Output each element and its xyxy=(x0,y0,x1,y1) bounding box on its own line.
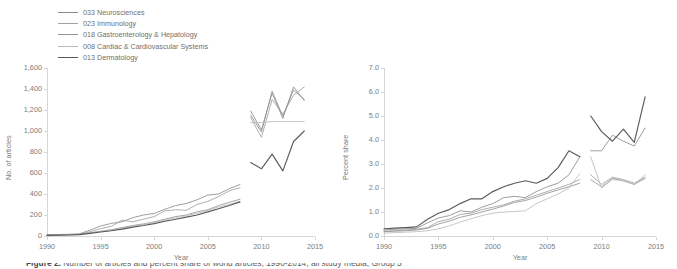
figure-root: 033 Neurosciences023 Immunology018 Gastr… xyxy=(0,0,677,269)
data-line xyxy=(251,131,305,171)
data-line xyxy=(47,199,240,235)
data-line xyxy=(384,174,580,234)
data-line xyxy=(384,157,580,230)
caption-bold: Figure 2. xyxy=(26,263,61,268)
data-line xyxy=(47,201,240,235)
data-line xyxy=(384,151,580,229)
data-line xyxy=(384,180,580,232)
figure-caption-clipped: Figure 2. Number of articles and percent… xyxy=(0,263,677,269)
articles-chart: 02004006008001,0001,2001,4001,6001990199… xyxy=(0,0,340,269)
data-line xyxy=(591,97,645,143)
plot-area xyxy=(337,0,677,269)
data-line xyxy=(251,87,305,137)
data-line xyxy=(251,122,305,123)
percent-share-chart: 0.01.02.03.04.05.06.07.01990199520002005… xyxy=(337,0,677,269)
caption-rest: Number of articles and percent share of … xyxy=(61,263,402,268)
plot-area xyxy=(0,0,340,269)
data-line xyxy=(47,202,240,235)
